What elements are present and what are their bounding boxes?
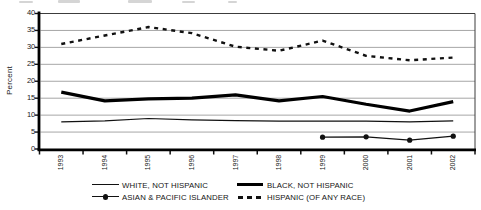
x-tick-label: 1993 <box>55 155 67 195</box>
y-tick-label: 15 <box>12 93 35 103</box>
x-tick-label: 2002 <box>447 155 459 195</box>
legend-label: ASIAN & PACIFIC ISLANDER <box>122 193 229 202</box>
line-with-dot-icon <box>92 193 119 201</box>
legend-item-asian: ASIAN & PACIFIC ISLANDER <box>92 192 229 202</box>
x-tick-label: 2001 <box>404 155 416 195</box>
series-white-not-hispanic <box>61 119 453 122</box>
y-tick-label: 10 <box>12 110 35 120</box>
series-black-not-hispanic <box>61 92 453 111</box>
y-tick-label: 35 <box>12 25 35 35</box>
thin-line-icon <box>92 181 119 189</box>
line-chart-figure: Percent 40 35 30 25 20 15 10 5 0 1993 19… <box>0 0 481 210</box>
marker-asian-pacific-islander <box>407 138 412 143</box>
dashed-line-icon <box>237 193 264 201</box>
legend-label: WHITE, NOT HISPANIC <box>122 181 208 190</box>
legend-item-hispanic: HISPANIC (OF ANY RACE) <box>237 192 365 202</box>
legend-item-white: WHITE, NOT HISPANIC <box>92 180 208 190</box>
y-tick-label: 0 <box>12 144 35 154</box>
thick-line-icon <box>237 181 264 189</box>
legend-item-black: BLACK, NOT HISPANIC <box>237 180 354 190</box>
x-tick-label: 2000 <box>360 155 372 195</box>
legend-label: BLACK, NOT HISPANIC <box>267 181 354 190</box>
y-tick-label: 25 <box>12 59 35 69</box>
marker-asian-pacific-islander <box>451 134 456 139</box>
series-hispanic-of-any-race <box>61 27 453 60</box>
marker-asian-pacific-islander <box>320 135 325 140</box>
legend-label: HISPANIC (OF ANY RACE) <box>267 193 365 202</box>
y-tick-label: 40 <box>12 8 35 18</box>
series-asian-pacific-islander <box>323 136 454 140</box>
y-tick-label: 20 <box>12 76 35 86</box>
y-tick-label: 30 <box>12 42 35 52</box>
marker-asian-pacific-islander <box>364 134 369 139</box>
y-tick-label: 5 <box>12 127 35 137</box>
